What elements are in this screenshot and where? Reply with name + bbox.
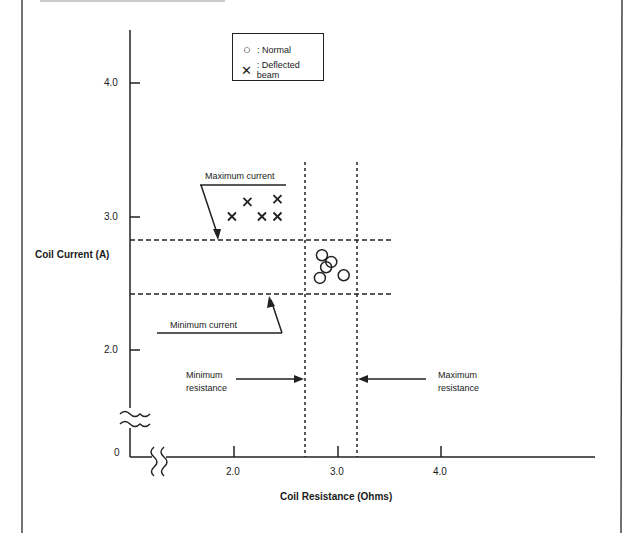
normal-point-marker [314, 272, 325, 283]
legend: ○ : Normal ✕ : Deflected beam [232, 33, 324, 81]
x-axis [130, 446, 595, 476]
max-current-label: Maximum current [205, 171, 275, 181]
max-resistance-label-2: resistance [438, 383, 479, 393]
legend-label: : Normal [257, 45, 291, 55]
x-tick-label: 3.0 [330, 466, 344, 477]
x-axis-break-icon [151, 447, 157, 476]
x-marker-icon: ✕ [241, 63, 253, 78]
deflected-point-marker [273, 195, 281, 203]
y-axis-title: Coil Current (A) [35, 249, 109, 260]
arrow-head-icon [358, 375, 368, 383]
x-tick-label: 2.0 [226, 466, 240, 477]
max-resistance-label-1: Maximum [438, 370, 477, 380]
min-resistance-label-2: resistance [186, 383, 227, 393]
legend-label: : Deflected beam [257, 60, 323, 80]
deflected-point-marker [258, 213, 266, 221]
circle-marker-icon: ○ [241, 42, 253, 57]
y-tick-label: 3.0 [104, 211, 118, 222]
min-resistance-label-1: Minimum [186, 370, 223, 380]
reference-lines [130, 162, 392, 457]
y-axis-break-icon [120, 412, 150, 417]
y-axis [120, 30, 150, 457]
x-tick-label: 4.0 [433, 466, 447, 477]
legend-item-normal: ○ : Normal [241, 42, 291, 57]
y-tick-label: 0 [114, 447, 120, 458]
frame-right [621, 0, 622, 533]
deflected-point-marker [243, 198, 251, 206]
y-tick-label: 2.0 [104, 344, 118, 355]
y-tick-label: 4.0 [104, 77, 118, 88]
normal-point-marker [338, 270, 349, 281]
legend-item-deflected: ✕ : Deflected beam [241, 60, 323, 80]
x-axis-title: Coil Resistance (Ohms) [280, 491, 392, 502]
annotation-arrows [157, 185, 426, 383]
arrow-head-icon [294, 375, 304, 383]
max-current-arrow [201, 185, 218, 236]
arrow-head-icon [267, 296, 275, 308]
deflected-point-marker [228, 213, 236, 221]
arrow-head-icon [213, 229, 221, 240]
deflected-point-marker [273, 213, 281, 221]
min-current-label: Minimum current [170, 320, 237, 330]
